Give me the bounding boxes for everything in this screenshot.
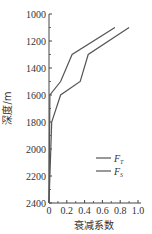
x-tick-label: 0.6 xyxy=(96,205,109,216)
y-tick-label: 2400 xyxy=(26,198,46,209)
x-tick-label: 0.4 xyxy=(78,205,91,216)
series-line-f-t xyxy=(49,28,115,204)
y-tick-label: 1000 xyxy=(26,9,46,20)
y-tick-label: 2000 xyxy=(26,144,46,155)
legend: FTFS xyxy=(96,153,124,178)
x-tick-label: 0 xyxy=(47,205,52,216)
x-tick-label: 0.2 xyxy=(61,205,74,216)
x-tick-label: 1.0 xyxy=(132,205,145,216)
y-tick-label: 2200 xyxy=(26,171,46,182)
y-tick-label: 1200 xyxy=(26,36,46,47)
x-tick-label: 0.8 xyxy=(114,205,127,216)
legend-label: FT xyxy=(113,153,124,165)
legend-label: FS xyxy=(113,166,123,178)
y-tick-label: 1400 xyxy=(26,63,46,74)
axes: 1000120014001600180020002200240000.20.40… xyxy=(26,9,144,217)
y-tick-label: 1600 xyxy=(26,90,46,101)
x-axis-title: 衰减系数 xyxy=(74,219,114,231)
y-axis-title: 深度/m xyxy=(1,91,13,124)
depth-attenuation-chart: 1000120014001600180020002200240000.20.40… xyxy=(0,0,152,234)
y-tick-label: 1800 xyxy=(26,117,46,128)
legend-subscript: S xyxy=(120,172,123,178)
legend-subscript: T xyxy=(120,159,124,165)
